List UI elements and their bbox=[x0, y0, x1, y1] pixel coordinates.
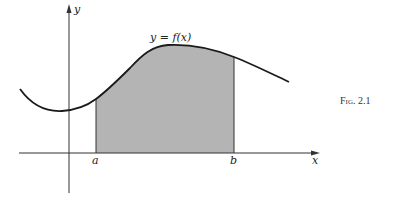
figure-caption: Fig. 2.1 bbox=[340, 95, 370, 106]
y-axis-label: y bbox=[73, 3, 81, 16]
b-label: b bbox=[230, 154, 237, 167]
curve-label: y = f(x) bbox=[149, 31, 191, 44]
y-axis-arrow-icon bbox=[67, 4, 72, 13]
area-under-curve-figure: y x a b y = f(x) Fig. 2.1 bbox=[0, 0, 395, 203]
a-label: a bbox=[92, 154, 99, 167]
shaded-area-region bbox=[96, 45, 234, 153]
x-axis-label: x bbox=[312, 154, 319, 167]
